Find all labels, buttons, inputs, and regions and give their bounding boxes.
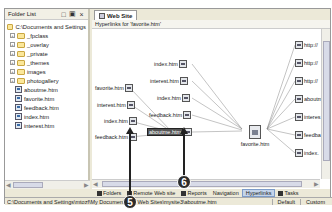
node-label: interest.htm xyxy=(150,78,179,84)
page-icon xyxy=(295,131,303,139)
tab-label: Navigation xyxy=(213,190,239,196)
page-icon xyxy=(179,60,187,68)
page-icon xyxy=(183,111,191,119)
status-mode-default[interactable]: Default xyxy=(272,199,300,205)
node-label: aboutm xyxy=(304,96,322,102)
tree-file[interactable]: aboutme.htm xyxy=(7,85,86,94)
outgoing-node[interactable]: feedba xyxy=(295,131,321,139)
home-page-icon xyxy=(15,113,22,120)
status-mode-custom[interactable]: Custom xyxy=(300,199,330,205)
scroll-thumb[interactable] xyxy=(102,181,302,187)
tasks-icon xyxy=(278,191,283,196)
callout-arrowhead-6 xyxy=(180,127,188,134)
scroll-left-icon[interactable]: ◀ xyxy=(93,180,98,187)
expand-icon[interactable]: + xyxy=(10,69,15,74)
outgoing-node[interactable]: interes xyxy=(295,113,321,121)
tab-label: Folders xyxy=(103,190,121,196)
tree-folder[interactable]: +_private xyxy=(7,49,86,58)
folder-label: images xyxy=(27,69,46,75)
folder-hscrollbar[interactable]: ◀ ▶ xyxy=(5,180,90,189)
folder-icon xyxy=(7,24,13,30)
hyperlinks-diagram: index.htm interest.htm index.htm feedbac… xyxy=(92,29,320,179)
tab-label: Reports xyxy=(187,190,206,196)
new-folder-icon[interactable]: ▣ xyxy=(69,11,76,18)
incoming-node[interactable]: index.htm xyxy=(104,117,137,125)
outgoing-node[interactable]: http:// xyxy=(295,41,318,49)
callout-arrow-6 xyxy=(183,132,185,180)
tab-folders[interactable]: Folders xyxy=(94,189,124,197)
tree-root[interactable]: C:\Documents and Settings xyxy=(7,22,86,31)
incoming-node[interactable]: feedback.htm xyxy=(149,111,191,119)
outgoing-node[interactable]: http:// xyxy=(295,59,318,67)
page-icon xyxy=(15,122,22,129)
callout-5: 5 xyxy=(123,195,137,209)
tab-label: Web Site xyxy=(107,13,132,19)
incoming-node[interactable]: interest.htm xyxy=(150,77,188,85)
page-icon xyxy=(15,95,22,102)
tree-folder[interactable]: +_themes xyxy=(7,58,86,67)
node-label: feedback.htm xyxy=(149,112,182,118)
expand-icon[interactable]: + xyxy=(10,33,15,38)
file-label: aboutme.htm xyxy=(24,87,58,93)
tab-tasks[interactable]: Tasks xyxy=(275,189,301,197)
tree-folder[interactable]: +_overlay xyxy=(7,40,86,49)
node-label: http:// xyxy=(304,42,318,48)
incoming-node[interactable]: favorite.htm xyxy=(95,84,133,92)
tab-web-site[interactable]: Web Site xyxy=(94,10,137,20)
scroll-right-icon[interactable]: ▶ xyxy=(84,181,89,188)
folder-label: _private xyxy=(27,51,48,57)
node-label: feedback.htm xyxy=(95,134,128,140)
folder-icon xyxy=(17,78,25,84)
expand-icon[interactable]: + xyxy=(10,51,15,56)
page-icon xyxy=(15,86,22,93)
tab-hyperlinks[interactable]: Hyperlinks xyxy=(242,189,276,197)
hyperlinks-subheader: Hyperlinks for 'favorite.htm' xyxy=(92,20,330,29)
close-icon[interactable]: × xyxy=(78,11,85,18)
expand-icon[interactable]: + xyxy=(10,60,15,65)
tree-folder[interactable]: +photogallery xyxy=(7,76,86,85)
expand-icon[interactable]: + xyxy=(10,78,15,83)
page-icon xyxy=(249,125,261,139)
tree-file[interactable]: favorite.htm xyxy=(7,94,86,103)
scroll-right-icon[interactable]: ▶ xyxy=(314,180,319,187)
status-bar: C:\Documents and Settings\mtozf\My Docum… xyxy=(5,197,332,205)
app-window: Folder List □ ▣ × C:\Documents and Setti… xyxy=(4,8,331,204)
callout-arrowhead-5 xyxy=(126,127,134,134)
scroll-thumb[interactable] xyxy=(13,182,43,188)
tab-label: Hyperlinks xyxy=(246,190,272,196)
folder-label: photogallery xyxy=(27,78,59,84)
tree-file[interactable]: feedback.htm xyxy=(7,103,86,112)
diagram-hscrollbar[interactable]: ◀ ▶ xyxy=(92,179,320,188)
tab-navigation[interactable]: Navigation xyxy=(210,189,242,197)
status-path: C:\Documents and Settings\mtozf\My Docum… xyxy=(7,199,272,205)
folder-icon xyxy=(17,60,25,66)
page-icon xyxy=(127,101,135,109)
node-label: index.htm xyxy=(157,95,181,101)
scroll-left-icon[interactable]: ◀ xyxy=(6,181,11,188)
tree-file[interactable]: index.htm xyxy=(7,112,86,121)
folder-icon xyxy=(17,42,25,48)
outgoing-node[interactable]: index. xyxy=(295,149,319,157)
node-label: index.htm xyxy=(154,61,178,67)
folder-tree: C:\Documents and Settings +_fpclass +_ov… xyxy=(5,20,88,132)
outgoing-node[interactable]: aboutm xyxy=(295,95,322,103)
incoming-node[interactable]: index.htm xyxy=(157,94,190,102)
tree-folder[interactable]: +images xyxy=(7,67,86,76)
tree-file[interactable]: interest.htm xyxy=(7,121,86,130)
page-icon xyxy=(125,84,133,92)
page-icon xyxy=(295,95,303,103)
folder-label: _fpclass xyxy=(27,33,48,39)
new-page-icon[interactable]: □ xyxy=(60,11,67,18)
tree-folder[interactable]: +_fpclass xyxy=(7,31,86,40)
expand-icon[interactable]: + xyxy=(10,42,15,47)
diagram-vscrollbar[interactable] xyxy=(321,29,330,179)
incoming-node[interactable]: index.htm xyxy=(154,60,187,68)
scroll-thumb[interactable] xyxy=(323,41,330,161)
incoming-node[interactable]: interest.htm xyxy=(97,101,135,109)
center-page-node[interactable]: favorite.htm xyxy=(240,125,270,147)
node-label: index. xyxy=(304,150,319,156)
document-tabs: Web Site xyxy=(92,9,330,20)
outgoing-node[interactable]: http:// xyxy=(295,77,318,85)
tab-reports[interactable]: Reports xyxy=(178,189,209,197)
page-icon xyxy=(295,113,303,121)
